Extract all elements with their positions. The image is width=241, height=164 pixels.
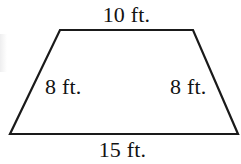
left-leg-length-label: 8 ft. bbox=[45, 76, 81, 98]
trapezoid-figure: 10 ft. 8 ft. 8 ft. 15 ft. bbox=[0, 0, 241, 164]
right-leg-length-label: 8 ft. bbox=[170, 76, 206, 98]
bottom-base-length-label: 15 ft. bbox=[0, 139, 241, 161]
top-base-length-label: 10 ft. bbox=[0, 4, 241, 26]
